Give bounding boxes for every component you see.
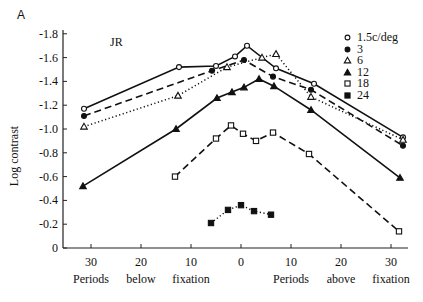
legend: 1.5c/deg36121824 [343, 32, 398, 101]
legend-item: 3 [343, 44, 398, 56]
x-tick-label: 10 [185, 255, 197, 270]
x-sub-label: fixation [172, 272, 209, 287]
x-tick-label: 30 [385, 255, 397, 270]
y-tick-label: -1.2 [20, 98, 58, 113]
y-tick-label: -1.6 [20, 51, 58, 66]
subject-label: JR [110, 35, 123, 50]
legend-label: 24 [357, 90, 369, 102]
x-sub-label: below [126, 272, 155, 287]
legend-item: 12 [343, 67, 398, 79]
legend-label: 1.5c/deg [357, 32, 398, 44]
y-tick-label: -0.4 [20, 193, 58, 208]
open-square-icon [343, 79, 352, 88]
filled-circle-icon [343, 45, 352, 54]
legend-item: 6 [343, 55, 398, 67]
series-24 [208, 203, 273, 226]
y-tick-label: -1.4 [20, 74, 58, 89]
open-circle-icon [343, 33, 352, 42]
filled-triangle-icon [343, 68, 352, 77]
y-tick-label: -0.6 [20, 170, 58, 185]
series-18 [172, 123, 401, 234]
x-tick-label: 0 [238, 255, 244, 270]
filled-square-icon [343, 91, 352, 100]
y-tick-label: -1.0 [20, 122, 58, 137]
y-tick-label: -0.2 [20, 217, 58, 232]
legend-item: 18 [343, 78, 398, 90]
legend-item: 1.5c/deg [343, 32, 398, 44]
x-sub-label: Periods [73, 272, 109, 287]
open-triangle-icon [343, 56, 352, 65]
x-sub-label: Periods [273, 272, 309, 287]
legend-item: 24 [343, 90, 398, 102]
y-tick-label: -0.8 [20, 146, 58, 161]
y-tick-label: -1.8 [20, 27, 58, 42]
x-sub-label: above [327, 272, 356, 287]
x-tick-label: 20 [335, 255, 347, 270]
x-sub-label: fixation [372, 272, 409, 287]
x-tick-label: 20 [135, 255, 147, 270]
y-tick-label: 0 [20, 241, 58, 256]
x-tick-label: 10 [285, 255, 297, 270]
x-tick-label: 30 [85, 255, 97, 270]
